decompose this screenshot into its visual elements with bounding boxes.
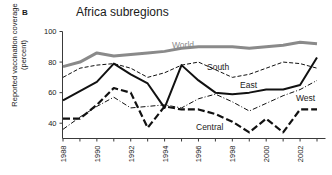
y-tick-label: 100	[44, 27, 57, 36]
x-tick-label: 1996	[194, 146, 203, 163]
series-label-south: South	[207, 62, 229, 72]
series-line-south	[63, 62, 317, 77]
y-tick-label: 60	[48, 88, 56, 97]
series-label-west: West	[296, 93, 316, 103]
x-tick-label: 1988	[59, 146, 68, 163]
x-tick-label: 1994	[161, 146, 170, 163]
x-tick-label: 1990	[93, 146, 102, 163]
x-axis-tick-labels: 19881990199219941996199820002002	[59, 146, 305, 163]
y-tick-label: 80	[48, 58, 56, 67]
y-tick-label: 40	[48, 119, 56, 128]
plot-area: 406080100 198819901992199419961998200020…	[0, 0, 332, 175]
y-axis-ticks: 406080100	[44, 27, 63, 128]
series-line-west	[63, 80, 317, 129]
x-tick-label: 1998	[228, 146, 237, 163]
x-tick-label: 2000	[262, 146, 271, 163]
series-label-world: World	[172, 40, 194, 50]
series-label-central: Central	[196, 122, 224, 132]
series-label-east: East	[240, 80, 258, 90]
chart-figure: B Africa subregions Reported vaccination…	[0, 0, 332, 175]
x-tick-label: 1992	[127, 146, 136, 163]
series-lines	[63, 42, 317, 132]
series-line-central	[63, 88, 317, 132]
x-tick-label: 2002	[296, 146, 305, 163]
